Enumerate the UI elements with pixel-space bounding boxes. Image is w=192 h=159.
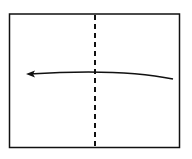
fold-diagram	[0, 0, 192, 159]
